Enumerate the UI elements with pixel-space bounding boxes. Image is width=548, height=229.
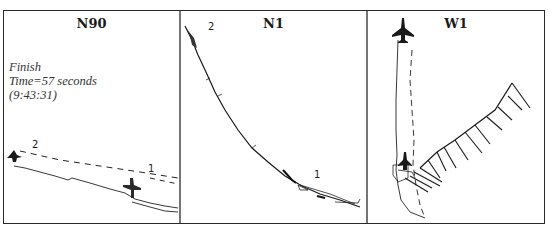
aircraft-icon — [7, 150, 22, 162]
n90-marker-2: 2 — [32, 139, 38, 150]
panel-title-w1: W1 — [367, 16, 545, 31]
w1-trajectories — [393, 40, 530, 218]
caption-finish: Finish — [9, 60, 97, 74]
panel-title-n90: N90 — [3, 16, 180, 31]
finish-caption: Finish Time=57 seconds (9:43:31) — [9, 60, 97, 102]
n1-marker-2: 2 — [208, 21, 214, 32]
caption-time: Time=57 seconds — [9, 74, 97, 88]
trajectory-drawing — [0, 0, 548, 229]
n1-trajectories — [185, 26, 360, 207]
n90-trajectories — [14, 151, 178, 212]
caption-clock: (9:43:31) — [9, 88, 97, 102]
aircraft-icon — [398, 152, 412, 170]
aircraft-icon — [123, 178, 141, 198]
n1-marker-1: 1 — [314, 169, 320, 180]
trajectory-figure: N90 N1 W1 Finish Time=57 seconds (9:43:3… — [0, 0, 548, 229]
n90-marker-1: 1 — [148, 163, 154, 174]
